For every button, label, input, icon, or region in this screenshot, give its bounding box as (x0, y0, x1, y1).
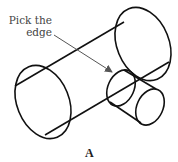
large-cylinder-left-end (5, 57, 82, 147)
pointer-arrow (54, 35, 112, 72)
annotation-line-2: edge (6, 26, 52, 38)
annotation-line-1: Pick the (6, 14, 52, 26)
large-cylinder-right-end (105, 0, 178, 89)
small-cylinder-left-end (101, 65, 141, 110)
small-cylinder-right-end (130, 84, 170, 129)
figure-caption: A (85, 146, 94, 161)
annotation-label: Pick the edge (6, 14, 52, 38)
